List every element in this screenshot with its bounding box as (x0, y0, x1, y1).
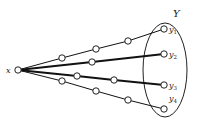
source-node-x (15, 67, 21, 73)
path-edge-y3 (18, 70, 164, 85)
path-node-y1-1 (59, 55, 65, 61)
target-node-y1 (161, 26, 167, 32)
path-node-y1-3 (125, 38, 131, 44)
target-node-y4 (161, 106, 167, 112)
source-label-x: x (6, 66, 11, 75)
path-node-y4-2 (93, 88, 99, 94)
path-diagram: Yxy1y2y3y4 (0, 0, 197, 124)
path-node-y2-1 (89, 59, 95, 65)
path-edge-y4 (18, 70, 164, 109)
set-y-label: Y (173, 8, 181, 19)
target-label-y1: y1 (168, 25, 177, 35)
target-node-y3 (161, 82, 167, 88)
path-node-y4-3 (125, 97, 131, 103)
target-label-y4: y4 (168, 94, 178, 104)
target-node-y2 (161, 51, 167, 57)
target-label-y3: y3 (168, 81, 178, 91)
target-label-y2: y2 (168, 50, 177, 60)
set-y-ellipse (143, 23, 187, 117)
path-node-y4-1 (59, 78, 65, 84)
path-node-y3-2 (111, 77, 117, 83)
path-node-y3-1 (74, 73, 80, 79)
path-node-y1-2 (93, 46, 99, 52)
